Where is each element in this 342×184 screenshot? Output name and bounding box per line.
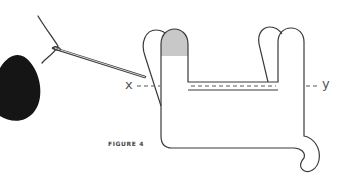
point-label-y: y	[322, 77, 330, 90]
point-label-x: x	[125, 78, 133, 91]
figure-canvas: x y FIGURE 4	[0, 0, 342, 184]
figure-caption: FIGURE 4	[108, 140, 144, 147]
needle-icon	[38, 16, 145, 77]
yarn-ball-icon	[0, 55, 40, 121]
diagram-svg	[0, 0, 342, 184]
